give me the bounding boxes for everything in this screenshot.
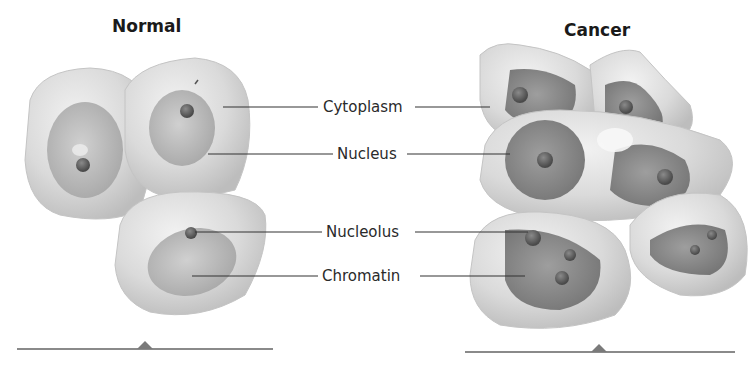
normal-cell-right xyxy=(125,58,250,197)
normal-baseline xyxy=(17,341,273,349)
label-nucleus: Nucleus xyxy=(333,145,401,163)
normal-panel-title: Normal xyxy=(112,16,181,36)
cancer-cells xyxy=(470,44,747,329)
cancer-panel-title: Cancer xyxy=(564,20,630,40)
cell-diagram-art xyxy=(0,0,755,365)
label-chromatin: Chromatin xyxy=(318,267,404,285)
normal-cell-bottom xyxy=(115,192,266,315)
cancer-baseline xyxy=(465,344,735,352)
label-cytoplasm: Cytoplasm xyxy=(319,98,407,116)
label-nucleolus: Nucleolus xyxy=(322,223,403,241)
